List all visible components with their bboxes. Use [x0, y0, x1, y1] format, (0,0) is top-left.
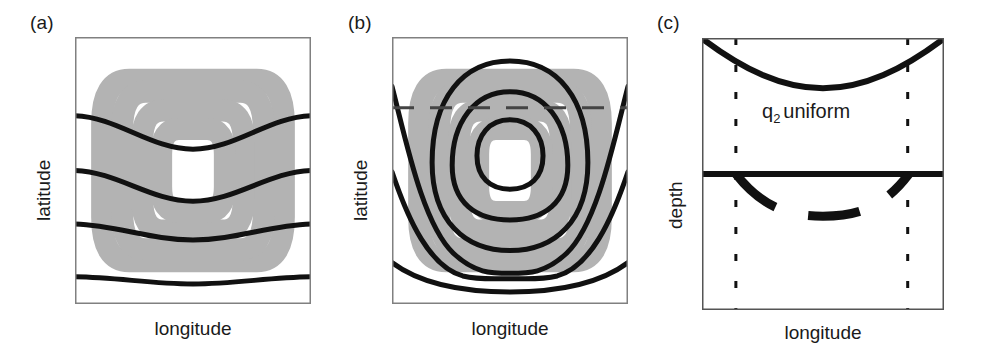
q2-uniform-note: q2uniform — [762, 100, 850, 123]
q2-uniform-base: q — [762, 100, 773, 122]
panel-b-xlabel: longitude — [392, 318, 628, 340]
panel-b-plot — [392, 37, 628, 304]
panel-b-ylabel: latitude — [350, 121, 372, 221]
q2-uniform-subscript: 2 — [773, 111, 783, 126]
pv-contour-4 — [75, 277, 311, 284]
panel-c-xlabel: longitude — [702, 322, 944, 344]
panel-b-label: (b) — [348, 12, 372, 34]
q2-uniform-tail: uniform — [783, 100, 850, 122]
panel-c-ylabel: depth — [665, 129, 687, 229]
panel-a-label: (a) — [30, 12, 54, 34]
panel-a-ylabel: latitude — [33, 121, 55, 221]
panel-a-plot — [75, 37, 311, 304]
shadow-zone-boundary — [736, 174, 909, 216]
layer-interface-curve — [703, 39, 943, 88]
figure-root: (a) latitude longitude (b) — [0, 0, 983, 362]
gyre-streamline-4 — [478, 129, 542, 212]
panel-a-xlabel: longitude — [75, 318, 311, 340]
panel-c-label: (c) — [657, 12, 680, 34]
panel-c-plot — [702, 38, 944, 310]
